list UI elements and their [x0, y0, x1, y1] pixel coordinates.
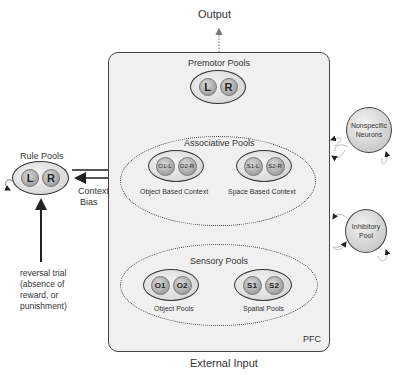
associative-title: Associative Pools	[184, 138, 255, 148]
node-s1: S1	[243, 276, 262, 295]
spatial-pools-label: Spatial Pools	[243, 305, 284, 312]
rule-node-l: L	[21, 169, 39, 187]
node-o2: O2	[173, 276, 192, 295]
associative-pools	[120, 136, 316, 226]
premotor-node-r: R	[220, 78, 238, 96]
premotor-title: Premotor Pools	[188, 58, 250, 68]
object-context-label: Object Based Context	[140, 188, 208, 195]
node-s2: S2	[265, 276, 284, 295]
object-pools-label: Object Pools	[154, 305, 194, 312]
spatial-pools: S1 S2	[234, 269, 292, 301]
rule-node-r: R	[42, 169, 60, 187]
pfc-label: PFC	[303, 334, 321, 344]
rule-pool: L R	[12, 161, 69, 195]
context-bias-label: Context Bias	[78, 186, 109, 208]
nonspecific-neurons: NonspecificNeurons	[346, 107, 392, 153]
rule-title: Rule Pools	[20, 151, 64, 161]
object-context-pool: O1-L O2-R	[148, 150, 204, 182]
node-s1-l: S1-L	[244, 157, 263, 176]
external-input-label: External Input	[190, 357, 258, 369]
node-o1-l: O1-L	[156, 157, 175, 176]
premotor-pool: L R	[190, 70, 246, 104]
premotor-node-l: L	[199, 78, 217, 96]
node-s2-r: S2-R	[266, 157, 285, 176]
reversal-trial-label: reversal trial (absence of reward, or pu…	[20, 268, 67, 312]
sensory-title: Sensory Pools	[190, 256, 248, 266]
inhibitory-pool: InhibitoryPool	[345, 209, 387, 253]
space-context-pool: S1-L S2-R	[236, 150, 292, 182]
space-context-label: Space Based Context	[228, 188, 296, 195]
node-o2-r: O2-R	[178, 157, 197, 176]
node-o1: O1	[151, 276, 170, 295]
object-pools: O1 O2	[143, 269, 199, 301]
output-label: Output	[198, 8, 231, 20]
